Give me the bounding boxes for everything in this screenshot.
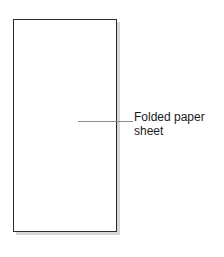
folded-paper-sheet-shape bbox=[13, 19, 117, 232]
callout-label-text: Folded paper sheet bbox=[134, 110, 224, 138]
diagram-canvas: Folded paper sheet bbox=[0, 0, 224, 257]
callout-leader-line bbox=[78, 121, 133, 122]
